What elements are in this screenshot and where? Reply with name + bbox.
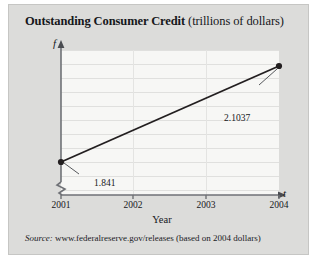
chart-plot-frame: f t 2001 2002 2003 2004 Year 1.841 2.103… — [31, 37, 293, 222]
x-axis-variable-label: t — [283, 187, 286, 199]
figure-card: Outstanding Consumer Credit (trillions o… — [8, 4, 309, 255]
chart-axes — [31, 37, 293, 222]
page-title: Outstanding Consumer Credit (trillions o… — [25, 14, 305, 29]
x-axis-title: Year — [31, 214, 293, 225]
figure-title-main: Outstanding Consumer Credit — [25, 14, 185, 28]
source-note: Source: www.federalreserve.gov/releases … — [25, 233, 261, 243]
x-tick-label-2001: 2001 — [41, 200, 81, 210]
y-axis-variable-label: f — [53, 37, 56, 49]
data-label-21037: 2.1037 — [224, 113, 250, 123]
x-tick-label-2003: 2003 — [186, 200, 226, 210]
data-label-1841: 1.841 — [94, 178, 115, 188]
figure-title-subtitle: (trillions of dollars) — [188, 14, 284, 28]
x-tick-label-2004: 2004 — [259, 200, 299, 210]
data-point-marker — [276, 63, 282, 69]
y-axis-break-icon — [57, 182, 65, 195]
data-point-marker — [58, 159, 64, 165]
y-axis-arrow-icon — [58, 40, 65, 48]
annotation-leader-line — [64, 163, 79, 174]
source-text: www.federalreserve.gov/releases (based o… — [55, 233, 261, 243]
x-tick-label-2002: 2002 — [113, 200, 153, 210]
source-label: Source: — [25, 233, 53, 243]
